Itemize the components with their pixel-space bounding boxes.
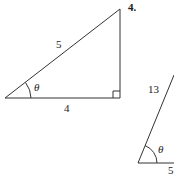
base-label: 5	[168, 165, 174, 175]
angle-arc	[145, 146, 157, 164]
right-angle-marker	[113, 91, 120, 98]
problem-number-4: 4.	[128, 2, 136, 13]
hypotenuse-label: 13	[148, 84, 159, 95]
hypotenuse-label: 5	[56, 39, 62, 50]
angle-label: θ	[34, 82, 39, 93]
triangle-3	[5, 9, 120, 98]
angle-label: θ	[158, 144, 163, 155]
base-label: 4	[64, 103, 70, 114]
angle-arc	[26, 83, 32, 99]
